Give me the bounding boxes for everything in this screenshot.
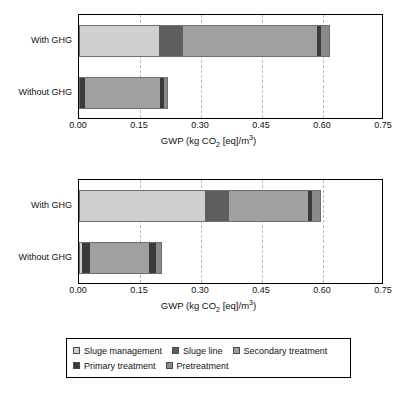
legend-swatch-icon xyxy=(166,362,173,369)
x-axis-title-top: GWP (kg CO2 [eq]/m3) xyxy=(0,134,417,148)
category-label-with-ghg: With GHG xyxy=(0,35,72,45)
figure-root: 0.000.150.300.450.600.75 GWP (kg CO2 [eq… xyxy=(0,0,417,393)
x-tick-label: 0.60 xyxy=(302,120,342,130)
x-tick-label: 0.60 xyxy=(302,285,342,295)
category-label-without-ghg: Without GHG xyxy=(0,87,72,97)
legend-label: Pretreatment xyxy=(177,361,229,371)
legend-item[interactable]: Pretreatment xyxy=(166,361,229,371)
legend-row: Primary treatmentPretreatment xyxy=(73,358,344,373)
legend-item[interactable]: Sluge management xyxy=(73,346,162,356)
x-tick-label: 0.00 xyxy=(58,120,98,130)
x-tick-label: 0.45 xyxy=(241,285,281,295)
legend-item[interactable]: Primary treatment xyxy=(73,361,156,371)
category-label-without-ghg: Without GHG xyxy=(0,252,72,262)
legend: Sluge managementSluge lineSecondary trea… xyxy=(66,338,351,378)
gridline xyxy=(323,180,325,283)
bar-segment xyxy=(156,242,162,274)
category-label-with-ghg: With GHG xyxy=(0,200,72,210)
x-axis-ticks-bottom: 0.000.150.300.450.600.75 xyxy=(0,285,417,299)
x-axis-ticks-top: 0.000.150.300.450.600.75 xyxy=(0,120,417,134)
x-tick-label: 0.30 xyxy=(180,285,220,295)
axis-title-main: GWP (kg CO xyxy=(161,300,216,311)
x-axis-title-bottom: GWP (kg CO2 [eq]/m3) xyxy=(0,299,417,313)
axis-title-close: ) xyxy=(253,135,256,146)
x-tick-label: 0.45 xyxy=(241,120,281,130)
axis-title-rest: [eq]/m xyxy=(220,135,249,146)
legend-item[interactable]: Sluge line xyxy=(172,346,223,356)
x-tick-label: 0.75 xyxy=(363,285,403,295)
axis-title-close: ) xyxy=(253,300,256,311)
x-tick-label: 0.00 xyxy=(58,285,98,295)
legend-label: Sluge management xyxy=(84,346,162,356)
legend-item[interactable]: Secondary treatment xyxy=(233,346,328,356)
bar-segment xyxy=(149,242,156,274)
legend-label: Sluge line xyxy=(183,346,223,356)
bar-segment xyxy=(321,25,330,57)
x-tick-label: 0.15 xyxy=(119,285,159,295)
chart-panel-bottom: 0.000.150.300.450.600.75 GWP (kg CO2 [eq… xyxy=(0,165,417,325)
legend-swatch-icon xyxy=(172,347,179,354)
x-tick-label: 0.75 xyxy=(363,120,403,130)
bar-segment xyxy=(82,242,90,274)
axis-title-main: GWP (kg CO xyxy=(161,135,216,146)
bar-segment xyxy=(79,190,205,222)
plot-area-bottom xyxy=(78,179,383,284)
x-tick-label: 0.15 xyxy=(119,120,159,130)
bar-segment xyxy=(85,77,160,109)
bar-segment xyxy=(159,25,183,57)
bar-segment xyxy=(183,25,317,57)
legend-swatch-icon xyxy=(233,347,240,354)
axis-title-rest: [eq]/m xyxy=(220,300,249,311)
bar-segment xyxy=(79,25,159,57)
legend-swatch-icon xyxy=(73,362,80,369)
plot-area-top xyxy=(78,14,383,119)
legend-label: Secondary treatment xyxy=(244,346,328,356)
legend-label: Primary treatment xyxy=(84,361,156,371)
legend-row: Sluge managementSluge lineSecondary trea… xyxy=(73,343,344,358)
bar-segment xyxy=(90,242,149,274)
bar-segment xyxy=(164,77,168,109)
bar-segment xyxy=(312,190,321,222)
legend-swatch-icon xyxy=(73,347,80,354)
bar-segment xyxy=(205,190,229,222)
bar-segment xyxy=(229,190,308,222)
x-tick-label: 0.30 xyxy=(180,120,220,130)
chart-panel-top: 0.000.150.300.450.600.75 GWP (kg CO2 [eq… xyxy=(0,0,417,160)
